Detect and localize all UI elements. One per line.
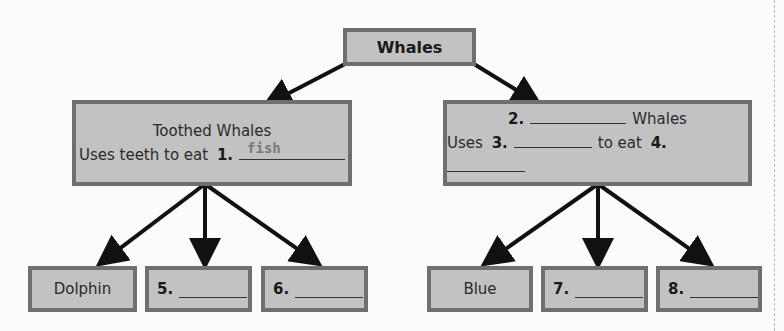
page-edge-dashed-line — [774, 0, 775, 331]
item7-blank[interactable] — [575, 281, 643, 298]
item2-blank[interactable] — [530, 107, 626, 124]
leaf-item5: 5. — [145, 266, 252, 312]
item4-number: 4. — [651, 134, 667, 152]
item4-blank[interactable] — [447, 155, 525, 172]
second-title-suffix: Whales — [632, 110, 687, 128]
root-node-whales: Whales — [343, 28, 476, 66]
leaf-item8: 8. — [656, 266, 762, 312]
arrow-root-to-baleen — [474, 64, 536, 102]
leaf-dolphin: Dolphin — [28, 266, 137, 312]
item5-number: 5. — [157, 280, 173, 298]
node-toothed-whales: Toothed Whales Uses teeth to eat 1.fish — [72, 100, 352, 186]
item6-blank[interactable] — [295, 281, 363, 298]
node-second-whales: 2.Whales Uses 3.to eat 4. — [443, 100, 752, 186]
arrow-to-item8 — [598, 184, 708, 262]
item8-blank[interactable] — [690, 281, 758, 298]
item3-number: 3. — [492, 134, 508, 152]
item8-number: 8. — [668, 280, 684, 298]
toothed-line2: Uses teeth to eat 1.fish — [79, 143, 345, 167]
second-title: 2.Whales — [508, 107, 687, 131]
leaf-item6: 6. — [261, 266, 368, 312]
arrow-to-blue — [487, 184, 598, 262]
arrow-to-dolphin — [102, 184, 205, 262]
second-line2-middle: to eat — [598, 134, 642, 152]
item1-blank[interactable]: fish — [239, 143, 345, 160]
leaf-blue-label: Blue — [463, 280, 496, 298]
item1-number: 1. — [217, 146, 233, 164]
toothed-line2-text: Uses teeth to eat — [79, 146, 208, 164]
arrow-to-item6 — [205, 184, 316, 262]
leaf-item7: 7. — [541, 266, 648, 312]
item5-blank[interactable] — [179, 281, 247, 298]
leaf-blue: Blue — [427, 266, 533, 312]
leaf-dolphin-label: Dolphin — [54, 280, 112, 298]
arrow-root-to-toothed — [268, 64, 345, 104]
item6-number: 6. — [273, 280, 289, 298]
item1-answer: fish — [247, 136, 281, 160]
second-line2-prefix: Uses — [447, 134, 483, 152]
item3-blank[interactable] — [514, 131, 592, 148]
item7-number: 7. — [553, 280, 569, 298]
second-line2: Uses 3.to eat 4. — [447, 131, 748, 179]
root-label: Whales — [377, 38, 443, 57]
item2-number: 2. — [508, 110, 524, 128]
